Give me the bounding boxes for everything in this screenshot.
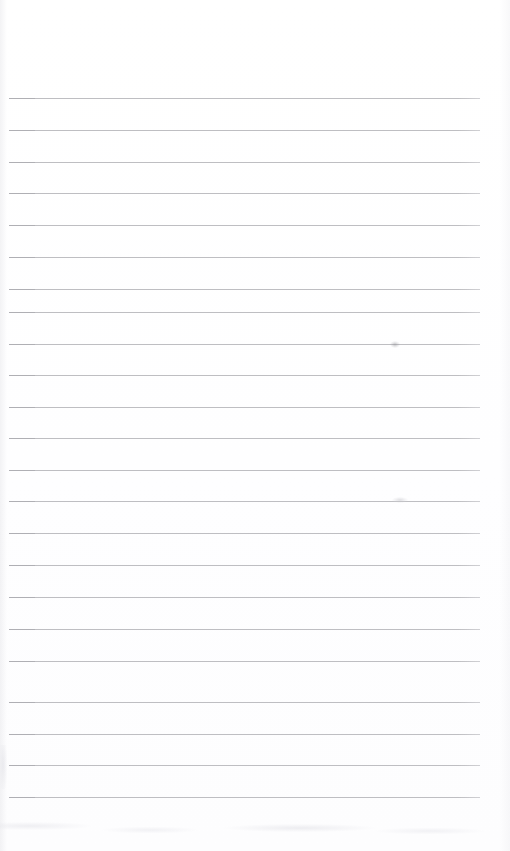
ruled-line — [9, 98, 480, 99]
ruled-line — [9, 597, 480, 598]
ruled-line — [9, 289, 480, 290]
ruled-line — [9, 193, 480, 194]
ruled-line — [9, 501, 480, 502]
ruled-line — [9, 225, 480, 226]
ruled-line — [9, 765, 480, 766]
ruled-line — [9, 344, 480, 345]
ruled-line — [9, 130, 480, 131]
ruled-line — [9, 734, 480, 735]
ruled-line — [9, 565, 480, 566]
ruled-line — [9, 162, 480, 163]
ruled-line — [9, 533, 480, 534]
ruled-line — [9, 438, 480, 439]
ruled-line — [9, 661, 480, 662]
ruled-line — [9, 407, 480, 408]
ruled-line — [9, 797, 480, 798]
ruled-line — [9, 470, 480, 471]
ruled-line — [9, 312, 480, 313]
ruled-line — [9, 629, 480, 630]
ruled-lines-layer — [0, 0, 510, 851]
ruled-line — [9, 257, 480, 258]
ruled-line — [9, 375, 480, 376]
ruled-line — [9, 702, 480, 703]
scanned-page — [0, 0, 510, 851]
